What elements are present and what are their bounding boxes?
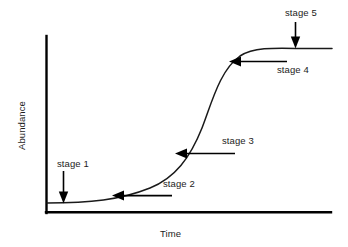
x-axis-label: Time [160,228,181,239]
growth-curve-figure: Abundance Time stage 1 stage 2 stage 3 s… [0,0,348,247]
stage-1-arrow [59,171,68,204]
stage-4-label: stage 4 [277,64,309,75]
figure-canvas [0,0,348,247]
stage-5-label: stage 5 [285,7,317,18]
stage-2-arrow [112,191,172,201]
stage-2-label: stage 2 [163,178,195,189]
stage-5-arrow [291,22,300,49]
stage-3-arrow [175,149,235,159]
stage-3-label: stage 3 [222,135,254,146]
y-axis-label: Abundance [16,101,27,150]
stage-1-label: stage 1 [57,158,89,169]
